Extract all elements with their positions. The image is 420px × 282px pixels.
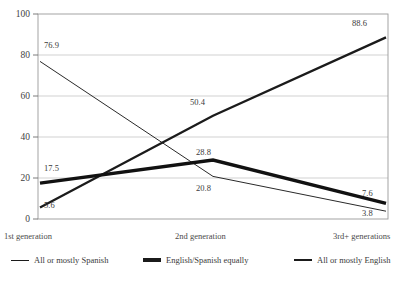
data-label-english-gen2: 50.4 bbox=[190, 97, 205, 107]
legend-label-all-or-mostly-spanish: All or mostly Spanish bbox=[34, 255, 108, 265]
data-label-equally-gen1: 17.5 bbox=[44, 163, 59, 173]
x-axis-label-2nd-generation: 2nd generation bbox=[175, 231, 226, 241]
y-axis-ticks bbox=[33, 14, 38, 219]
legend-label-all-or-mostly-english: All or mostly English bbox=[317, 255, 390, 265]
legend-swatch-english-spanish-equally bbox=[143, 258, 161, 261]
legend-swatch-all-or-mostly-english bbox=[294, 259, 312, 261]
series-line-all-or-mostly-english bbox=[40, 37, 386, 207]
series-line-english-spanish-equally bbox=[40, 160, 386, 203]
legend-entry-all-or-mostly-spanish[interactable]: All or mostly Spanish bbox=[11, 255, 108, 265]
legend-entry-english-spanish-equally[interactable]: English/Spanish equally bbox=[143, 255, 248, 265]
data-label-spanish-gen3: 3.8 bbox=[362, 208, 373, 218]
line-chart: 100 80 60 40 20 0 76.9 17.5 bbox=[0, 0, 420, 282]
legend-entry-all-or-mostly-english[interactable]: All or mostly English bbox=[294, 255, 390, 265]
x-axis-label-1st-generation: 1st generation bbox=[4, 231, 52, 241]
data-label-equally-gen2: 28.8 bbox=[196, 147, 211, 157]
data-label-english-gen3: 88.6 bbox=[352, 18, 367, 28]
data-label-spanish-gen1: 76.9 bbox=[44, 40, 59, 50]
data-label-equally-gen3: 7.6 bbox=[362, 188, 373, 198]
chart-legend: All or mostly Spanish English/Spanish eq… bbox=[0, 253, 420, 273]
legend-swatch-all-or-mostly-spanish bbox=[11, 260, 29, 261]
data-label-spanish-gen2: 20.8 bbox=[196, 183, 211, 193]
x-axis-label-3rd-generations: 3rd+ generations bbox=[333, 231, 390, 241]
legend-label-english-spanish-equally: English/Spanish equally bbox=[166, 255, 248, 265]
data-label-english-gen1: 5.6 bbox=[44, 200, 55, 210]
